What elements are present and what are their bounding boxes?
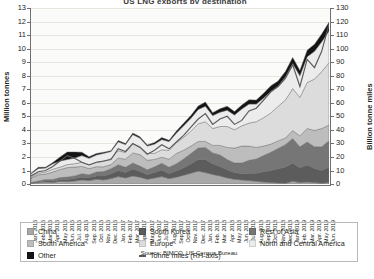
legend-item[interactable]: North and Central America: [249, 238, 345, 249]
y-tick-mark-right: [331, 62, 334, 63]
legend-color-swatch: [27, 240, 34, 247]
y-tick-label-left: 1: [6, 167, 26, 175]
legend-item[interactable]: China: [27, 226, 85, 237]
y-tick-mark-right: [331, 76, 334, 77]
y-tick-mark-right: [331, 89, 334, 90]
legend-item-label: North and Central America: [260, 239, 345, 248]
y-tick-label-left: 3: [6, 139, 26, 147]
legend-color-swatch: [249, 240, 256, 247]
legend-item-label: China: [38, 227, 57, 236]
y-tick-label-right: 10: [336, 167, 358, 175]
y-tick-label-left: 0: [6, 180, 26, 188]
chart-legend: ChinaSouth AmericaOther South KoreaEurop…: [20, 222, 358, 262]
y-tick-label-right: 0: [336, 180, 358, 188]
plot-inner: [31, 8, 330, 185]
legend-item[interactable]: South America: [27, 238, 85, 249]
y-tick-label-right: 50: [336, 112, 358, 120]
y-tick-mark-left: [27, 76, 30, 77]
y-tick-mark-right: [331, 143, 334, 144]
legend-item-label: South Korea: [150, 227, 190, 236]
y-tick-label-left: 11: [6, 31, 26, 39]
y-tick-label-left: 12: [6, 18, 26, 26]
y-tick-mark-left: [27, 130, 30, 131]
y-tick-label-right: 120: [336, 18, 358, 26]
y-tick-mark-left: [27, 89, 30, 90]
y-tick-label-left: 10: [6, 45, 26, 53]
y-axis-right-title: Billion tonne miles: [365, 83, 374, 150]
legend-color-swatch: [27, 228, 34, 235]
y-tick-label-right: 30: [336, 139, 358, 147]
legend-item[interactable]: South Korea: [139, 226, 221, 237]
y-axis-left-title: Million tonnes: [2, 72, 11, 122]
x-axis-labels: Jan. 2016Feb. 2016Mar. 2016Apr. 2016May …: [30, 187, 331, 220]
y-tick-mark-left: [27, 157, 30, 158]
y-tick-label-right: 40: [336, 126, 358, 134]
y-tick-mark-left: [27, 49, 30, 50]
legend-item-label: Europe: [150, 239, 173, 248]
y-tick-mark-left: [27, 35, 30, 36]
y-tick-label-left: 13: [6, 4, 26, 12]
y-tick-label-left: 2: [6, 153, 26, 161]
y-tick-mark-left: [27, 143, 30, 144]
y-tick-mark-left: [27, 103, 30, 104]
y-tick-mark-right: [331, 184, 334, 185]
y-tick-label-right: 130: [336, 4, 358, 12]
y-tick-mark-left: [27, 22, 30, 23]
y-tick-label-left: 4: [6, 126, 26, 134]
y-tick-mark-right: [331, 103, 334, 104]
source-note: Source: BIMCO, US Census Bureau: [21, 250, 357, 256]
y-tick-label-right: 70: [336, 85, 358, 93]
y-tick-label-right: 80: [336, 72, 358, 80]
legend-color-swatch: [139, 228, 146, 235]
legend-color-swatch: [139, 240, 146, 247]
y-tick-mark-left: [27, 116, 30, 117]
y-tick-mark-left: [27, 171, 30, 172]
legend-column-2: South KoreaEuropeTonne miles (RH-axis): [139, 226, 221, 262]
y-tick-label-left: 9: [6, 58, 26, 66]
legend-item[interactable]: Europe: [139, 238, 221, 249]
y-tick-label-right: 60: [336, 99, 358, 107]
stacked-area-series: [31, 8, 329, 184]
chart-title: US LNG exports by destination: [0, 0, 370, 4]
y-tick-mark-right: [331, 157, 334, 158]
y-tick-mark-right: [331, 49, 334, 50]
y-tick-label-right: 110: [336, 31, 358, 39]
y-tick-label-right: 100: [336, 45, 358, 53]
y-tick-mark-right: [331, 116, 334, 117]
legend-column-3: Rest of AsiaNorth and Central America: [249, 226, 345, 250]
legend-color-swatch: [249, 228, 256, 235]
y-tick-label-right: 20: [336, 153, 358, 161]
legend-column-1: ChinaSouth AmericaOther: [27, 226, 85, 262]
y-tick-mark-right: [331, 171, 334, 172]
y-tick-mark-left: [27, 62, 30, 63]
legend-item-label: South America: [38, 239, 85, 248]
y-tick-mark-right: [331, 8, 334, 9]
y-tick-mark-right: [331, 130, 334, 131]
y-tick-mark-left: [27, 8, 30, 9]
y-tick-mark-right: [331, 22, 334, 23]
y-tick-mark-left: [27, 184, 30, 185]
y-tick-mark-right: [331, 35, 334, 36]
plot-area: [30, 8, 331, 186]
legend-item[interactable]: Rest of Asia: [249, 226, 345, 237]
legend-item-label: Rest of Asia: [260, 227, 298, 236]
y-tick-label-right: 90: [336, 58, 358, 66]
